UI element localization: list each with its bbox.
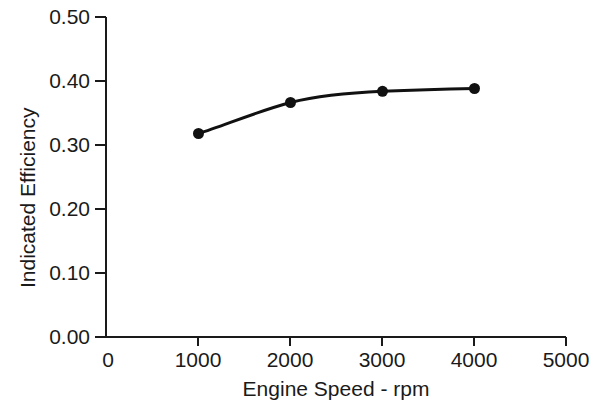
chart-figure: 0.50 0.40 0.30 0.20 0.10 0.00 0 1000 200… [0,0,601,410]
x-tick-label-0: 0 [102,348,114,372]
y-tick-label-0.00: 0.00 [2,325,90,349]
data-point-2000 [285,97,296,108]
y-axis-title: Indicated Efficiency [16,107,40,288]
x-tick-label-1000: 1000 [175,348,222,372]
y-tick-label-0.50: 0.50 [2,5,90,29]
x-tick-label-2000: 2000 [267,348,314,372]
y-tick-label-0.40: 0.40 [2,69,90,93]
data-point-1000 [193,128,204,139]
x-tick-label-4000: 4000 [451,348,498,372]
x-tick-label-3000: 3000 [359,348,406,372]
data-point-3000 [377,86,388,97]
x-axis-title: Engine Speed - rpm [243,377,430,401]
data-point-4000 [469,83,480,94]
x-tick-label-5000: 5000 [543,348,590,372]
